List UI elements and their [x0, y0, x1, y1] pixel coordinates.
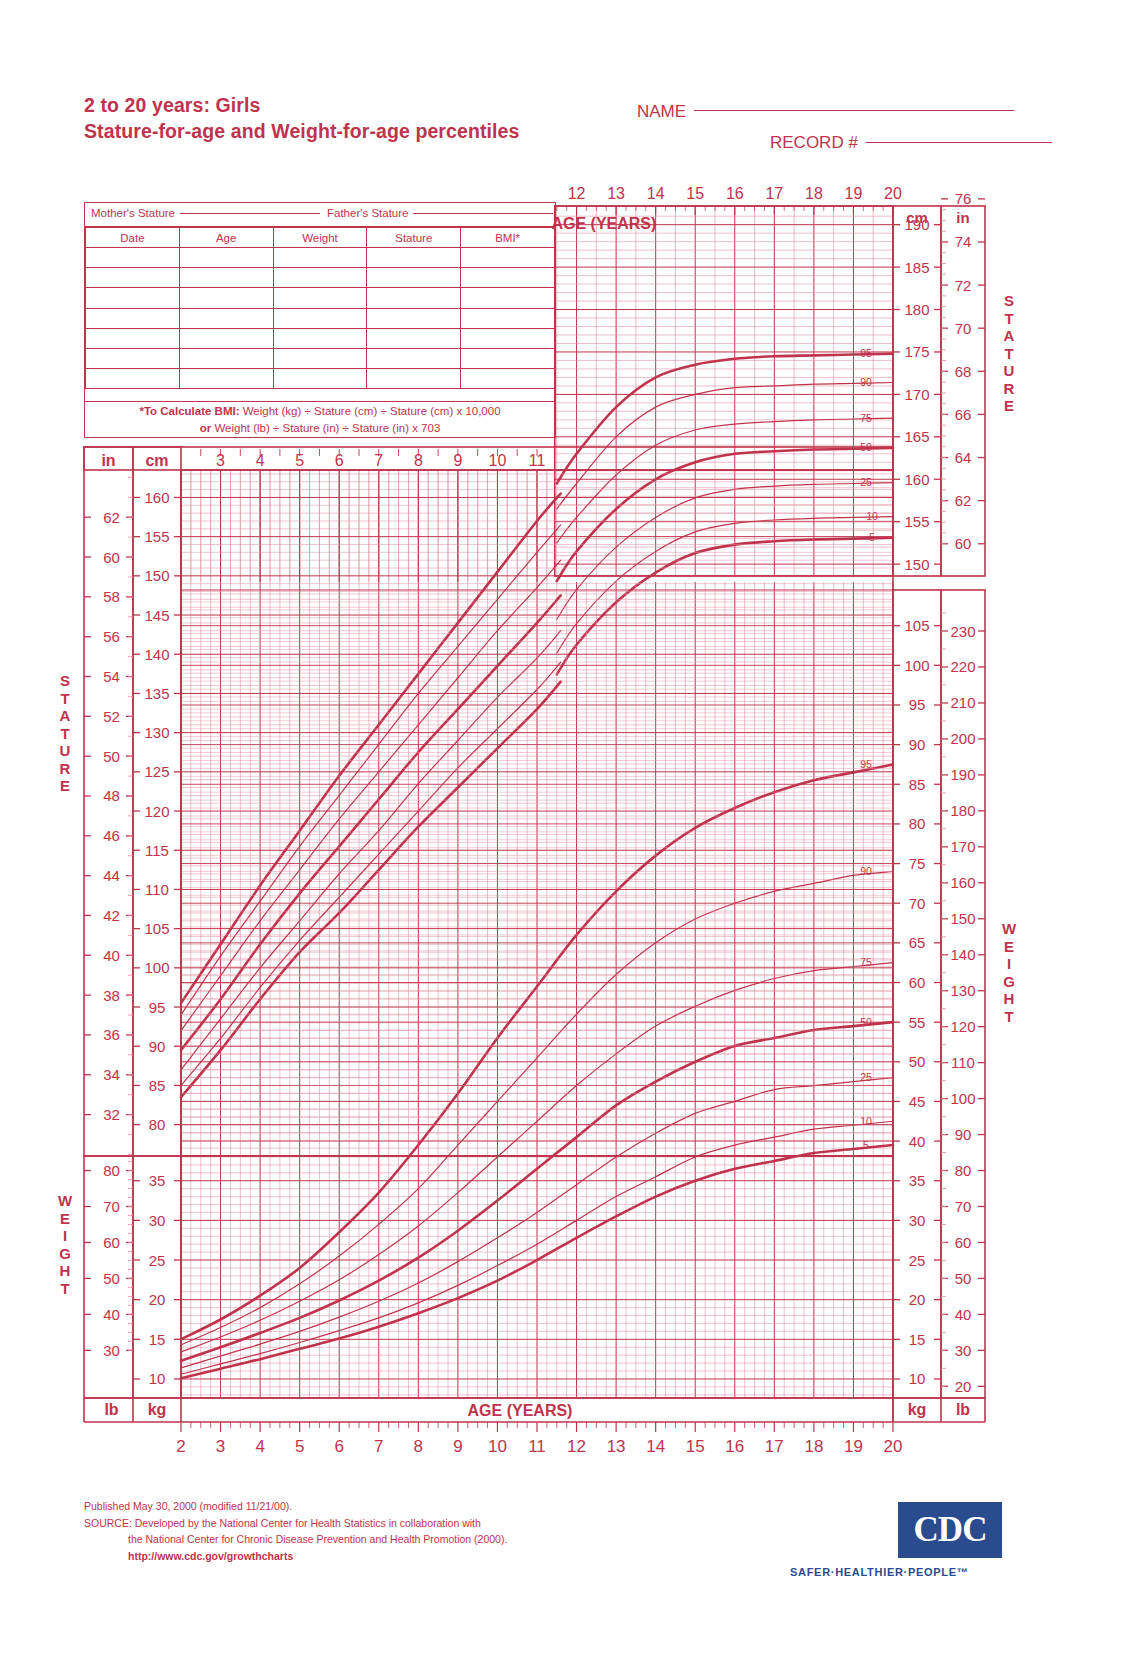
weight-kg-tick-left-10: 10: [149, 1370, 166, 1387]
weight-lb-tick-170: 170: [950, 838, 975, 855]
stature-curve-95th: [557, 354, 893, 484]
stature-upper-cm-tick-185: 185: [904, 259, 929, 276]
weight-lb-tick-50: 50: [955, 1270, 972, 1287]
weight-kg-tick-40: 40: [909, 1133, 926, 1150]
age-tick-bottom-2: 2: [176, 1437, 185, 1456]
footer-published: Published May 30, 2000 (modified 11/21/0…: [84, 1498, 507, 1515]
stature-upper-cm-tick-170: 170: [904, 386, 929, 403]
footer-url[interactable]: http://www.cdc.gov/growthcharts: [84, 1548, 507, 1565]
percentile-label-weight-5: 5: [863, 1139, 869, 1151]
age-tick-bottom-18: 18: [804, 1437, 823, 1456]
stature-upper-in-tick-72: 72: [955, 277, 972, 294]
weight-kg-tick-55: 55: [909, 1014, 926, 1031]
weight-lb-tick-160: 160: [950, 874, 975, 891]
stature-upper-in-axis: [941, 206, 985, 576]
age-tick-bottom-10: 10: [488, 1437, 507, 1456]
age-tick-bottom-16: 16: [725, 1437, 744, 1456]
age-tick-bottom-19: 19: [844, 1437, 863, 1456]
age-tick-bottom-3: 3: [216, 1437, 225, 1456]
weight-lb-tick-210: 210: [950, 694, 975, 711]
stature-upper-in-tick-68: 68: [955, 363, 972, 380]
age-tick-bottom-6: 6: [334, 1437, 343, 1456]
stature-in-tick-52: 52: [103, 708, 120, 725]
weight-kg-tick-90: 90: [909, 736, 926, 753]
weight-kg-tick-left-15: 15: [149, 1331, 166, 1348]
percentile-label-stature-75: 75: [860, 412, 872, 424]
weight-lb-tick-70: 70: [955, 1198, 972, 1215]
stature-upper-in-tick-60: 60: [955, 535, 972, 552]
percentile-label-weight-75: 75: [860, 956, 872, 968]
stature-in-tick-58: 58: [103, 588, 120, 605]
stature-cm-tick-125: 125: [144, 763, 169, 780]
weight-lb-tick-90: 90: [955, 1126, 972, 1143]
axis-unit-in-main: in: [101, 452, 115, 469]
weight-lb-tick-200: 200: [950, 730, 975, 747]
stature-upper-cm-tick-190: 190: [904, 216, 929, 233]
weight-kg-tick-30: 30: [909, 1212, 926, 1229]
age-years-title-bottom: AGE (YEARS): [468, 1402, 573, 1419]
age-tick-top-16: 16: [726, 185, 744, 202]
footer-source-1: SOURCE: Developed by the National Center…: [84, 1515, 507, 1532]
stature-in-tick-56: 56: [103, 628, 120, 645]
age-tick-top-17: 17: [765, 185, 783, 202]
age-tick-top-12: 12: [568, 185, 586, 202]
weight-kg-tick-75: 75: [909, 855, 926, 872]
axis-unit-kg-left: kg: [148, 1401, 167, 1418]
weight-lb-tick-40: 40: [955, 1306, 972, 1323]
stature-cm-tick-130: 130: [144, 724, 169, 741]
percentile-label-weight-10: 10: [860, 1115, 872, 1127]
age-tick-bottom-7: 7: [374, 1437, 383, 1456]
stature-in-tick-54: 54: [103, 668, 120, 685]
weight-lb-tick-left-60: 60: [103, 1234, 120, 1251]
cdc-logo: CDC: [898, 1502, 1002, 1558]
stature-cm-tick-85: 85: [149, 1077, 166, 1094]
weight-kg-tick-left-35: 35: [149, 1172, 166, 1189]
weight-lb-tick-120: 120: [950, 1018, 975, 1035]
stature-in-tick-38: 38: [103, 987, 120, 1004]
stature-cm-tick-105: 105: [144, 920, 169, 937]
growth-chart-plot: 9590755025105cmin15015516016517017518018…: [0, 0, 1126, 1655]
stature-in-tick-32: 32: [103, 1106, 120, 1123]
chart-svg: 9590755025105cmin15015516016517017518018…: [0, 0, 1126, 1655]
percentile-label-weight-90: 90: [860, 865, 872, 877]
stature-in-tick-48: 48: [103, 787, 120, 804]
weight-kg-tick-85: 85: [909, 776, 926, 793]
axis-unit-cm-main: cm: [145, 452, 168, 469]
age-years-title-top: AGE (YEARS): [551, 215, 656, 232]
age-tick-bottom-15: 15: [686, 1437, 705, 1456]
age-tick-top-15: 15: [686, 185, 704, 202]
percentile-label-stature-10: 10: [866, 510, 878, 522]
axis-unit-in-upper: in: [956, 209, 969, 226]
stature-in-tick-60: 60: [103, 549, 120, 566]
stature-cm-tick-140: 140: [144, 646, 169, 663]
age-tick-bottom-20: 20: [884, 1437, 903, 1456]
weight-lb-tick-left-40: 40: [103, 1306, 120, 1323]
age-tick-top-13: 13: [607, 185, 625, 202]
weight-lb-tick-130: 130: [950, 982, 975, 999]
stature-in-tick-34: 34: [103, 1066, 120, 1083]
weight-kg-tick-50: 50: [909, 1053, 926, 1070]
stature-upper-in-tick-66: 66: [955, 406, 972, 423]
age-tick-top-18: 18: [805, 185, 823, 202]
stature-in-tick-42: 42: [103, 907, 120, 924]
stature-in-tick-40: 40: [103, 947, 120, 964]
weight-lb-tick-220: 220: [950, 658, 975, 675]
footer-note: Published May 30, 2000 (modified 11/21/0…: [84, 1498, 507, 1564]
weight-lb-tick-left-30: 30: [103, 1342, 120, 1359]
weight-kg-tick-95: 95: [909, 696, 926, 713]
stature-upper-in-tick-70: 70: [955, 320, 972, 337]
stature-upper-in-tick-74: 74: [955, 233, 972, 250]
footer-source-2: the National Center for Chronic Disease …: [84, 1531, 507, 1548]
weight-kg-tick-left-30: 30: [149, 1212, 166, 1229]
age-tick-top-19: 19: [845, 185, 863, 202]
stature-cm-tick-80: 80: [149, 1116, 166, 1133]
stature-upper-cm-tick-160: 160: [904, 471, 929, 488]
stature-upper-cm-tick-150: 150: [904, 556, 929, 573]
weight-lb-tick-150: 150: [950, 910, 975, 927]
weight-kg-tick-80: 80: [909, 815, 926, 832]
stature-cm-tick-110: 110: [145, 881, 169, 898]
weight-lb-tick-60: 60: [955, 1234, 972, 1251]
stature-in-tick-50: 50: [103, 748, 120, 765]
stature-cm-tick-95: 95: [149, 999, 166, 1016]
weight-lb-tick-30: 30: [955, 1342, 972, 1359]
